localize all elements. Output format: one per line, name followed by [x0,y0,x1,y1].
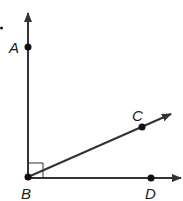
label-D: D [145,186,156,201]
geometry-diagram [0,0,183,201]
point-D [148,175,155,182]
ray-BC [28,114,171,177]
label-B: B [21,186,31,201]
edge-dot-mark [0,27,3,30]
point-C [139,124,146,131]
label-C: C [132,108,143,123]
point-B [25,174,32,181]
label-A: A [9,40,19,55]
point-A [25,44,32,51]
